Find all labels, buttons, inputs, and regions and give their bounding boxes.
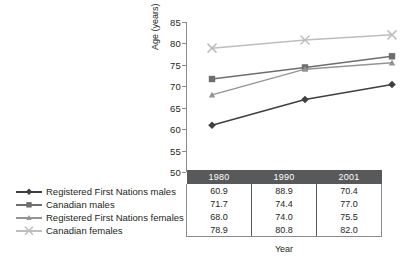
y-axis-title-text: Age (years) — [150, 0, 160, 50]
table-cell-1-0: 71.7 — [187, 197, 252, 210]
legend-label-1: Canadian males — [46, 198, 115, 211]
data-point-0-0 — [208, 121, 216, 129]
table-cell-2-2: 75.5 — [317, 210, 382, 223]
data-point-0-2 — [388, 81, 396, 89]
legend-marker-triangle-icon — [16, 212, 42, 223]
table-body: 60.988.970.471.774.477.068.074.075.578.9… — [187, 184, 382, 237]
legend-item-0: Registered First Nations males — [16, 185, 188, 198]
data-point-1-0 — [209, 76, 215, 82]
table-cell-2-0: 68.0 — [187, 210, 252, 223]
legend-item-3: Canadian females — [16, 224, 188, 237]
legend-marker-x-icon — [16, 225, 42, 236]
table-col-header-1980: 1980 — [187, 170, 252, 184]
plot-area: 5055606570758085 — [186, 22, 382, 172]
data-point-1-2 — [389, 53, 395, 59]
series-lines — [186, 22, 382, 172]
table-col-header-2001: 2001 — [317, 170, 382, 184]
table-cell-2-1: 74.0 — [252, 210, 317, 223]
series-line-0 — [212, 85, 392, 126]
data-table: 198019902001 60.988.970.471.774.477.068.… — [186, 170, 382, 237]
table-header-row: 198019902001 — [187, 170, 382, 184]
y-axis-title: Age (years) — [150, 0, 160, 50]
table-col-header-1990: 1990 — [252, 170, 317, 184]
table-cell-3-0: 78.9 — [187, 223, 252, 237]
table-cell-1-2: 77.0 — [317, 197, 382, 210]
legend-marker-diamond-icon — [16, 186, 42, 197]
chart-figure: Age (years) 5055606570758085 Year Regist… — [0, 0, 410, 267]
table-row: 60.988.970.4 — [187, 184, 382, 197]
table-cell-3-1: 80.8 — [252, 223, 317, 237]
table-cell-1-1: 74.4 — [252, 197, 317, 210]
legend: Registered First Nations malesCanadian m… — [16, 185, 188, 237]
table-row: 68.074.075.5 — [187, 210, 382, 223]
legend-label-2: Registered First Nations females — [46, 211, 184, 224]
legend-glyph-3 — [22, 224, 36, 238]
table-cell-0-2: 70.4 — [317, 184, 382, 197]
legend-glyph-1 — [22, 198, 36, 212]
table-cell-3-2: 82.0 — [317, 223, 382, 237]
legend-glyph-0 — [22, 185, 36, 199]
table-row: 71.774.477.0 — [187, 197, 382, 210]
legend-marker-square-icon — [16, 199, 42, 210]
table-row: 78.980.882.0 — [187, 223, 382, 237]
legend-item-1: Canadian males — [16, 198, 188, 211]
table-cell-0-0: 60.9 — [187, 184, 252, 197]
legend-label-3: Canadian females — [46, 224, 123, 237]
legend-item-2: Registered First Nations females — [16, 211, 188, 224]
legend-glyph-2 — [22, 211, 36, 225]
data-point-0-1 — [301, 96, 309, 104]
table-cell-0-1: 88.9 — [252, 184, 317, 197]
legend-label-0: Registered First Nations males — [46, 185, 176, 198]
x-axis-title: Year — [186, 244, 382, 254]
